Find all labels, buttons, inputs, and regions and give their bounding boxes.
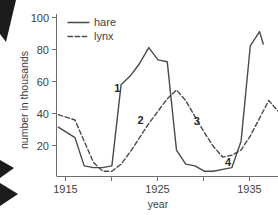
y-tick-label-80: 80: [37, 44, 49, 56]
annotation-4: 4: [225, 156, 232, 168]
y-axis-title: number in thousands: [18, 51, 30, 149]
scan-artifact-mid-icon: [0, 160, 14, 178]
chart-legend: hare lynx: [68, 16, 116, 42]
y-tick-label-20: 20: [37, 140, 49, 152]
annotation-1: 1: [114, 82, 120, 94]
legend-label-hare: hare: [94, 16, 116, 28]
legend-label-lynx: lynx: [94, 30, 114, 42]
x-tick-label-1915: 1915: [53, 183, 77, 195]
x-axis-title: year: [148, 198, 169, 210]
annotation-2: 2: [137, 114, 143, 126]
y-tick-label-60: 60: [37, 76, 49, 88]
y-tick-label-40: 40: [37, 108, 49, 120]
y-tick-label-100: 100: [31, 12, 49, 24]
series-line-hare: [58, 32, 263, 172]
chart-canvas: 100 80 60 40 20 1915 1925 1935 year numb…: [0, 0, 278, 215]
annotation-3: 3: [194, 115, 200, 127]
x-tick-label-1935: 1935: [237, 183, 261, 195]
line-chart-figure: 100 80 60 40 20 1915 1925 1935 year numb…: [0, 0, 278, 215]
scan-artifact-bottom-icon: [0, 183, 18, 206]
x-tick-label-1925: 1925: [145, 183, 169, 195]
scan-artifact-top-icon: [0, 0, 16, 42]
